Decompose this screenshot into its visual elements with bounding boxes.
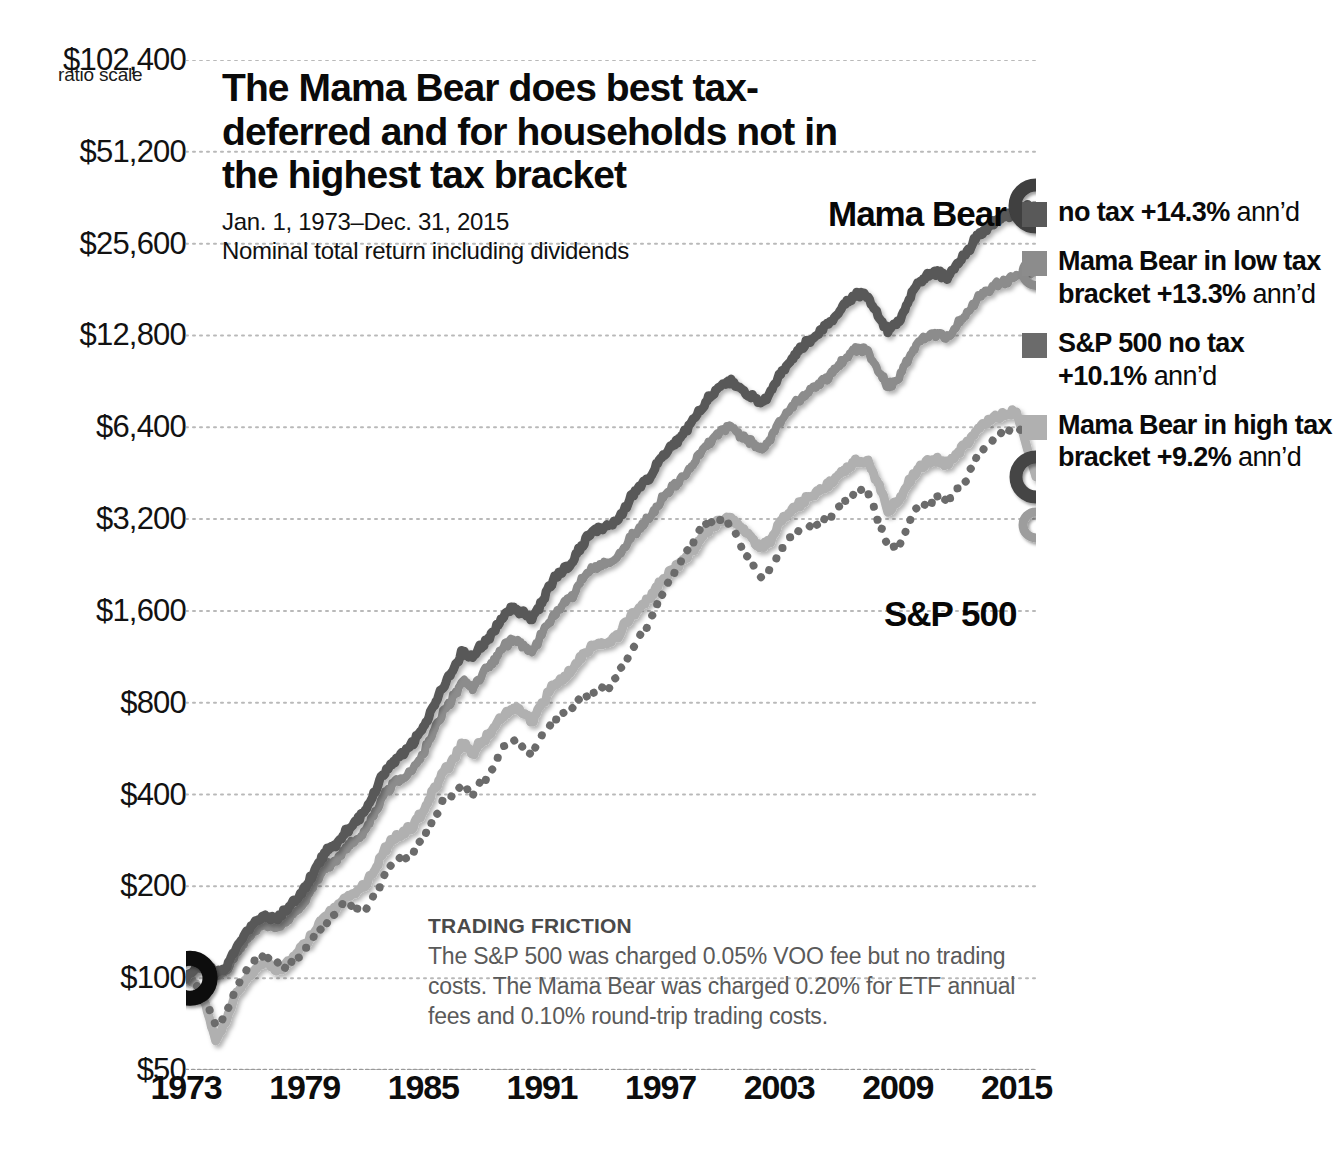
- x-axis-tick-label: 1973: [151, 1068, 222, 1107]
- legend-series-return: +13.3%: [1157, 279, 1246, 309]
- legend-series-annualized-suffix: ann’d: [1154, 361, 1217, 391]
- x-axis-tick-label: 2015: [981, 1068, 1052, 1107]
- series-label-sp500: S&P 500: [884, 594, 1016, 634]
- legend-swatch-icon: [1022, 415, 1047, 440]
- x-axis-tick-label: 2009: [862, 1068, 933, 1107]
- x-axis-tick-label: 1997: [625, 1068, 696, 1107]
- legend-label: S&P 500 no tax +10.1% ann’d: [1058, 327, 1332, 392]
- legend-series-return: +9.2%: [1157, 442, 1231, 472]
- page-title: The Mama Bear does best tax-deferred and…: [222, 66, 862, 197]
- legend-series-return: +10.1%: [1058, 361, 1147, 391]
- legend-item[interactable]: Mama Bear in low tax bracket +13.3% ann’…: [1022, 245, 1332, 310]
- legend-series-name: S&P 500 no tax: [1058, 328, 1244, 358]
- legend-swatch-icon: [1022, 202, 1047, 227]
- x-axis-tick-label: 1979: [269, 1068, 340, 1107]
- y-axis-tick-label: $3,200: [36, 501, 186, 537]
- legend-label: Mama Bear in low tax bracket +13.3% ann’…: [1058, 245, 1332, 310]
- legend-swatch-icon: [1022, 251, 1047, 276]
- y-axis-tick-label: $800: [36, 685, 186, 721]
- x-axis: 19731979198519911997200320092015: [186, 1068, 1036, 1138]
- y-axis-tick-label: $51,200: [36, 134, 186, 170]
- legend-item[interactable]: S&P 500 no tax +10.1% ann’d: [1022, 327, 1332, 392]
- trading-friction-heading: TRADING FRICTION: [428, 914, 1038, 938]
- y-axis-tick-label: $100: [36, 960, 186, 996]
- y-axis-tick-label: $400: [36, 777, 186, 813]
- legend-label: Mama Bear in high tax bracket +9.2% ann’…: [1058, 409, 1332, 474]
- legend-item[interactable]: Mama Bear in high tax bracket +9.2% ann’…: [1022, 409, 1332, 474]
- chart-date-range: Jan. 1, 1973–Dec. 31, 2015: [222, 207, 862, 236]
- legend-series-name: no tax: [1058, 197, 1134, 227]
- legend-series-return: +14.3%: [1141, 197, 1230, 227]
- legend-swatch-icon: [1022, 333, 1047, 358]
- y-axis: ratio scale $102,400$51,200$25,600$12,80…: [0, 0, 186, 1168]
- chart-legend: no tax +14.3% ann’dMama Bear in low tax …: [1022, 196, 1332, 491]
- x-axis-tick-label: 2003: [744, 1068, 815, 1107]
- trading-friction-note: TRADING FRICTION The S&P 500 was charged…: [428, 914, 1038, 1032]
- chart-subnote: Nominal total return including dividends: [222, 236, 862, 265]
- trading-friction-body: The S&P 500 was charged 0.05% VOO fee bu…: [428, 942, 1038, 1032]
- legend-item[interactable]: no tax +14.3% ann’d: [1022, 196, 1332, 228]
- series-line-mama-bear-no-tax: [186, 204, 1036, 979]
- headline-block: The Mama Bear does best tax-deferred and…: [222, 66, 862, 266]
- series-label-mama-bear: Mama Bear: [828, 194, 1006, 234]
- x-axis-tick-label: 1985: [388, 1068, 459, 1107]
- legend-series-annualized-suffix: ann’d: [1252, 279, 1315, 309]
- y-axis-tick-label: $6,400: [36, 409, 186, 445]
- y-axis-tick-label: $200: [36, 868, 186, 904]
- legend-series-annualized-suffix: ann’d: [1236, 197, 1299, 227]
- legend-label: no tax +14.3% ann’d: [1058, 196, 1300, 228]
- y-axis-tick-label: $12,800: [36, 317, 186, 353]
- y-axis-tick-label: $102,400: [36, 42, 186, 78]
- y-axis-tick-label: $1,600: [36, 593, 186, 629]
- x-axis-tick-label: 1991: [506, 1068, 577, 1107]
- y-axis-tick-label: $25,600: [36, 226, 186, 262]
- legend-series-annualized-suffix: ann’d: [1238, 442, 1301, 472]
